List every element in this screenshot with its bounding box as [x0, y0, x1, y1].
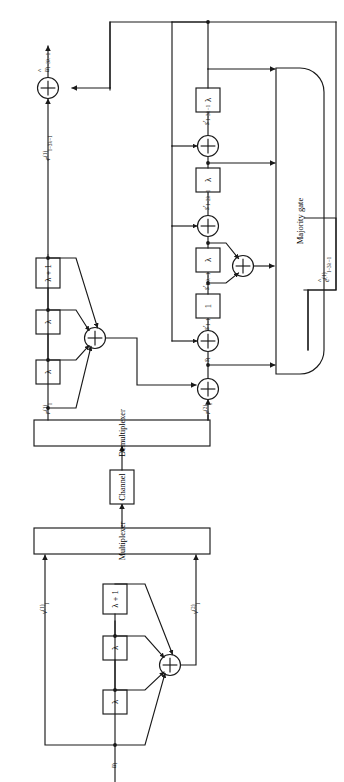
pair-adder-in-1: [208, 273, 239, 283]
demultiplexer-box: [34, 420, 210, 446]
decoder-tap-wire-0: [48, 347, 91, 409]
encoder-tap-wire-0: [115, 674, 165, 746]
majority-gate-body: [276, 68, 324, 374]
encoder-tap-wire-1: [115, 672, 164, 690]
decoder-tap-wire-3: [48, 258, 98, 328]
encoder-tap-wire-2: [115, 636, 164, 658]
encoder-tap-wire-3: [115, 584, 173, 654]
syndrome-box-4: [196, 88, 220, 112]
multiplexer-box: [34, 528, 210, 554]
block-diagram-svg: [0, 0, 344, 782]
decoder-tap-wire-2: [48, 310, 89, 331]
replica-to-syndrome-line: [106, 338, 197, 385]
diagram-canvas: ul λ λ λ + 1 v(1)l v(2)l Multiplexer Cha…: [0, 0, 344, 782]
syndrome-box-3: [196, 168, 220, 192]
decoder-tap-wire-1: [48, 346, 89, 361]
syndrome-box-2: [196, 248, 220, 272]
syndrome-box-1: [196, 294, 220, 318]
encoder-v2-line: [181, 555, 197, 665]
encoder-delay-box-3: [103, 584, 127, 614]
channel-box: [110, 470, 134, 504]
